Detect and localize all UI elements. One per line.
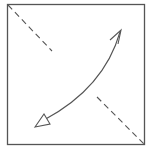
fold-diagram: [0, 0, 150, 151]
paper-square: [8, 5, 145, 145]
